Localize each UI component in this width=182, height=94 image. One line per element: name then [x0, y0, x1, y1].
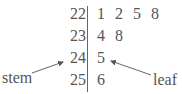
stem-arrow	[32, 62, 63, 73]
annotation-arrows	[0, 0, 182, 94]
leaf-arrow	[111, 61, 151, 75]
